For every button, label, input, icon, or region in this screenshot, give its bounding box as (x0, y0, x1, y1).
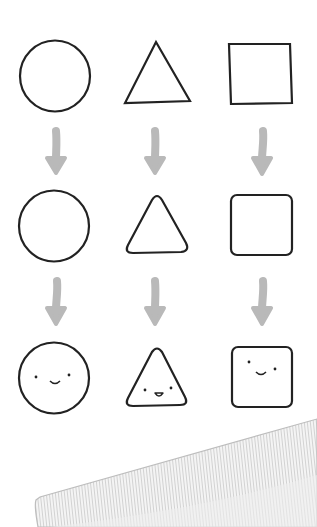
eye-right (274, 368, 277, 371)
arrows-row-1 (47, 131, 271, 174)
down-arrow-icon (146, 281, 164, 324)
circle-face (19, 343, 89, 414)
circle-plain (20, 41, 90, 112)
eye-left (144, 389, 147, 392)
down-arrow-icon (253, 131, 271, 174)
square-face (232, 347, 292, 407)
row-rounded (19, 191, 292, 262)
eye-right (68, 374, 71, 377)
down-arrow-icon (47, 131, 65, 173)
down-arrow-icon (146, 131, 164, 173)
triangle-face (127, 349, 186, 407)
square-sharp (229, 44, 292, 104)
eye-right (170, 387, 173, 390)
triangle-sharp (125, 42, 190, 103)
arrows-row-2 (47, 281, 271, 324)
down-arrow-icon (47, 281, 65, 324)
smile (256, 372, 266, 375)
row-faces (19, 343, 292, 414)
circle-rounded (19, 191, 89, 262)
triangle-rounded (127, 196, 187, 253)
eye-left (248, 361, 251, 364)
smile (50, 381, 60, 384)
row-plain (20, 41, 292, 112)
down-arrow-icon (253, 281, 271, 324)
smile (155, 393, 163, 396)
fabric-photo (35, 419, 317, 527)
shapes-illustration (0, 0, 317, 527)
square-rounded (231, 195, 292, 255)
eye-left (35, 376, 38, 379)
